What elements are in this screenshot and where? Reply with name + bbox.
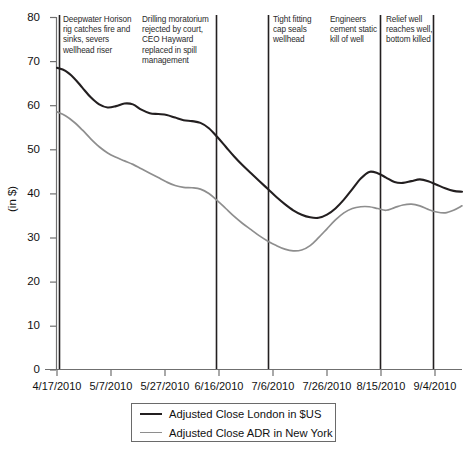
x-tick-label-3: 6/16/2010 [195,380,244,392]
annotation-tight-fitting-cap: Tight fitting cap seals wellhead [273,15,327,46]
annotation-relief-well: Relief well reaches well, bottom killed [386,15,438,46]
x-tick-label-2: 5/27/2010 [141,380,190,392]
y-axis-ticks [50,18,56,371]
x-tick-label-0: 4/17/2010 [33,380,82,392]
annotation-drilling-moratorium: Drilling moratorium rejected by court, C… [142,15,214,66]
x-tick-label-6: 8/15/2010 [357,380,406,392]
legend-swatch-adr-line [140,432,162,433]
series-line-london [57,68,462,218]
legend-entry-adr: Adjusted Close ADR in New York [132,423,335,442]
annotation-deepwater-horizon: Deepwater Horison rig catches fire and s… [63,15,135,56]
legend-entry-london: Adjusted Close London in $US [132,404,335,423]
legend-label-london: Adjusted Close London in $US [169,408,321,420]
legend: Adjusted Close London in $US Adjusted Cl… [131,403,336,442]
legend-swatch-london-line [140,413,162,415]
x-tick-label-7: 9/4/2010 [414,380,457,392]
x-axis-ticks [57,370,435,376]
annotation-static-kill: Engineers cement static kill of well [330,15,382,46]
legend-label-adr: Adjusted Close ADR in New York [169,427,333,439]
x-tick-label-5: 7/26/2010 [303,380,352,392]
chart-container: 80 70 60 50 40 30 20 10 0 (in $) [0,0,467,455]
x-tick-label-1: 5/7/2010 [90,380,133,392]
x-tick-label-4: 7/6/2010 [252,380,295,392]
